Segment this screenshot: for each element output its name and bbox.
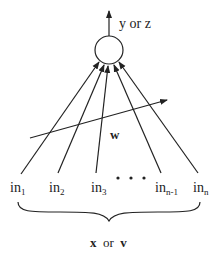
weight-label: w [110, 128, 119, 142]
input-base: in [49, 180, 60, 195]
input-sub: 1 [21, 187, 26, 197]
neuron-diagram [0, 0, 218, 254]
input-label-3: in3 [91, 181, 106, 199]
input-sub: 3 [102, 187, 107, 197]
edge-in-n-1 [114, 65, 161, 173]
input-base: in [10, 180, 21, 195]
ellipsis-dot [129, 176, 132, 179]
input-base: in [193, 180, 204, 195]
input-brace [18, 202, 200, 221]
ellipsis-dot [116, 176, 119, 179]
weight-arrow [30, 100, 167, 138]
input-vector-label: x or v [90, 236, 127, 250]
input-label-1: in1 [10, 181, 25, 199]
input-base: in [155, 180, 166, 195]
edge-in-n [119, 62, 198, 173]
input-sub: n-1 [166, 187, 178, 197]
ellipsis-dot [142, 176, 145, 179]
input-label-n: inn [193, 181, 208, 199]
input-base: in [91, 180, 102, 195]
output-label: y or z [119, 17, 151, 31]
input-sub: 2 [60, 187, 65, 197]
edge-in1 [21, 62, 99, 174]
input-label-2: in2 [49, 181, 64, 199]
input-sub: n [204, 187, 209, 197]
input-label-n-1: inn-1 [155, 181, 178, 199]
x-symbol: x [90, 235, 97, 250]
neuron-node [95, 36, 123, 64]
or-text: or [103, 235, 114, 250]
v-symbol: v [120, 235, 127, 250]
